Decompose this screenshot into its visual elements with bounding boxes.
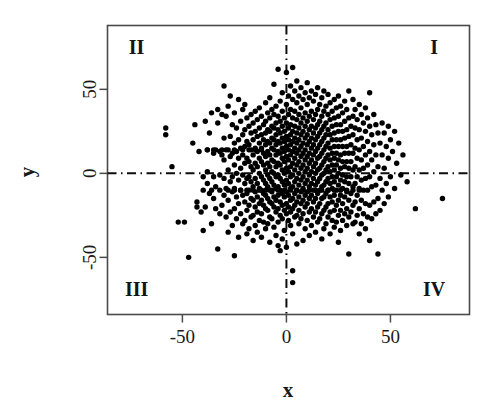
- data-point: [296, 208, 301, 213]
- data-point: [313, 196, 318, 201]
- data-point: [209, 187, 214, 192]
- data-point: [236, 235, 241, 240]
- data-point: [267, 164, 272, 169]
- data-point: [325, 112, 330, 117]
- data-point: [292, 156, 297, 161]
- data-point: [332, 97, 337, 102]
- data-point: [367, 203, 372, 208]
- data-point: [232, 206, 237, 211]
- data-point: [273, 103, 278, 108]
- data-point: [238, 119, 243, 124]
- data-point: [363, 105, 368, 110]
- data-point: [244, 115, 249, 120]
- data-point: [205, 181, 210, 186]
- plot-canvas: -50050 -50050 IIIIIIIV x y: [0, 0, 494, 417]
- data-point: [292, 108, 297, 113]
- data-point: [277, 119, 282, 124]
- data-point: [340, 218, 345, 223]
- data-point: [317, 119, 322, 124]
- data-point: [288, 83, 293, 88]
- data-point: [267, 115, 272, 120]
- data-point: [323, 103, 328, 108]
- data-point: [354, 174, 359, 179]
- data-point: [382, 130, 387, 135]
- data-point: [367, 124, 372, 129]
- data-point: [350, 132, 355, 137]
- data-point: [307, 95, 312, 100]
- data-point: [215, 107, 220, 112]
- data-point: [325, 127, 330, 132]
- data-point: [267, 240, 272, 245]
- data-point: [344, 127, 349, 132]
- data-point: [253, 176, 258, 181]
- data-point: [375, 196, 380, 201]
- data-point: [348, 142, 353, 147]
- data-point: [365, 115, 370, 120]
- data-point: [305, 119, 310, 124]
- data-point: [298, 105, 303, 110]
- data-point: [286, 93, 291, 98]
- data-point: [271, 224, 276, 229]
- data-point: [327, 100, 332, 105]
- data-point: [300, 97, 305, 102]
- data-point: [309, 88, 314, 93]
- data-point: [379, 187, 384, 192]
- data-point: [319, 95, 324, 100]
- data-point: [313, 209, 318, 214]
- data-point: [236, 137, 241, 142]
- data-point: [269, 216, 274, 221]
- data-point: [294, 117, 299, 122]
- data-point: [367, 174, 372, 179]
- data-point: [263, 100, 268, 105]
- data-point: [228, 179, 233, 184]
- data-point: [244, 231, 249, 236]
- data-point: [250, 213, 255, 218]
- data-point: [305, 201, 310, 206]
- data-point: [267, 95, 272, 100]
- data-point: [371, 169, 376, 174]
- data-point: [246, 203, 251, 208]
- data-point: [346, 214, 351, 219]
- data-point: [284, 102, 289, 107]
- y-axis-title: y: [15, 166, 39, 177]
- data-point: [242, 199, 247, 204]
- data-point: [294, 241, 299, 246]
- data-point: [311, 117, 316, 122]
- data-point: [315, 107, 320, 112]
- data-point: [321, 108, 326, 113]
- data-point: [354, 117, 359, 122]
- data-point: [348, 159, 353, 164]
- data-point: [336, 213, 341, 218]
- data-point: [386, 156, 391, 161]
- data-point: [373, 182, 378, 187]
- data-point: [213, 206, 218, 211]
- data-point: [223, 114, 228, 119]
- data-point: [209, 110, 214, 115]
- data-point: [309, 157, 314, 162]
- data-point: [277, 248, 282, 253]
- data-point: [213, 184, 218, 189]
- data-point: [296, 137, 301, 142]
- data-point: [294, 187, 299, 192]
- data-point: [311, 214, 316, 219]
- data-point: [357, 102, 362, 107]
- data-point: [352, 181, 357, 186]
- data-point: [234, 194, 239, 199]
- data-point: [240, 132, 245, 137]
- data-point: [305, 80, 310, 85]
- data-point: [255, 164, 260, 169]
- data-point: [342, 119, 347, 124]
- data-point: [234, 125, 239, 130]
- data-point: [296, 112, 301, 117]
- data-point: [246, 174, 251, 179]
- data-point: [354, 213, 359, 218]
- data-point: [217, 172, 222, 177]
- data-point: [246, 226, 251, 231]
- data-point: [321, 88, 326, 93]
- data-point: [294, 213, 299, 218]
- data-point: [336, 198, 341, 203]
- data-point: [344, 107, 349, 112]
- data-point: [354, 193, 359, 198]
- data-point: [253, 108, 258, 113]
- data-point: [357, 231, 362, 236]
